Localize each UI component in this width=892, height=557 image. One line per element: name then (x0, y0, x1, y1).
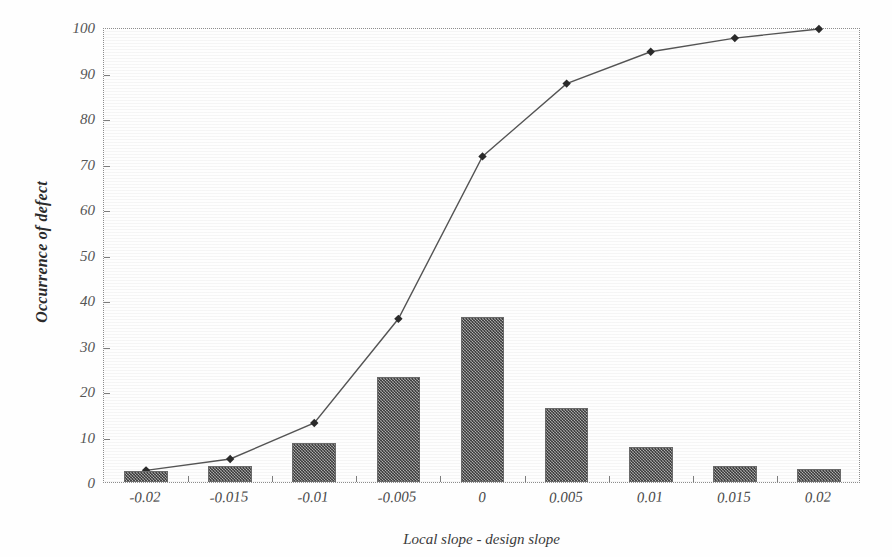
y-tick-label: 0 (88, 475, 96, 492)
line-marker (226, 455, 234, 463)
plot-area: 0102030405060708090100 (103, 28, 860, 483)
y-tick-label: 40 (80, 293, 95, 310)
x-tick-label: 0.005 (548, 488, 582, 506)
x-tick-label: 0 (477, 489, 485, 506)
x-tick-label: -0.01 (297, 488, 329, 506)
bar (797, 469, 841, 482)
line-marker (562, 79, 570, 87)
y-tick-mark (104, 211, 110, 212)
y-tick-mark (104, 439, 110, 440)
y-tick-mark (104, 120, 110, 121)
x-tick-mark (693, 476, 694, 482)
y-tick-mark (104, 348, 110, 349)
line-marker (478, 152, 486, 160)
x-tick-label: 0.01 (636, 489, 663, 507)
bar (461, 317, 505, 482)
line-marker (731, 34, 739, 42)
x-tick-mark (272, 476, 273, 482)
y-tick-label: 70 (80, 157, 95, 174)
bar (292, 443, 336, 482)
x-tick-label: -0.02 (129, 488, 161, 506)
y-tick-label: 20 (80, 384, 95, 401)
bar (545, 408, 589, 482)
y-tick-mark (104, 393, 110, 394)
x-tick-mark (356, 476, 357, 482)
x-tick-label: 0.015 (717, 488, 751, 506)
y-tick-mark (104, 166, 110, 167)
y-tick-label: 90 (80, 66, 95, 83)
line-marker (310, 419, 318, 427)
x-axis-title: Local slope - design slope (103, 531, 860, 548)
chart-figure: Occurrence of defect 0102030405060708090… (0, 0, 892, 557)
y-tick-mark (104, 257, 110, 258)
y-tick-label: 100 (73, 20, 96, 37)
x-tick-mark (188, 476, 189, 482)
y-tick-label: 80 (80, 111, 95, 128)
line-marker (394, 315, 402, 323)
line-marker (647, 48, 655, 56)
y-tick-label: 60 (80, 202, 95, 219)
x-tick-label: -0.015 (209, 488, 248, 506)
y-tick-label: 10 (80, 430, 95, 447)
bar (629, 447, 673, 482)
bar (377, 377, 421, 482)
x-tick-label: -0.005 (378, 488, 417, 506)
line-marker (815, 25, 823, 33)
y-tick-mark (104, 302, 110, 303)
y-axis-title: Occurrence of defect (33, 142, 51, 362)
y-tick-mark (104, 75, 110, 76)
x-tick-mark (525, 476, 526, 482)
x-tick-mark (609, 476, 610, 482)
y-tick-label: 30 (80, 339, 95, 356)
y-tick-label: 50 (80, 248, 95, 265)
bar (713, 466, 757, 482)
x-tick-mark (440, 476, 441, 482)
bar (124, 471, 168, 482)
x-tick-label: 0.02 (804, 489, 831, 507)
x-tick-mark (777, 476, 778, 482)
bar (208, 466, 252, 482)
